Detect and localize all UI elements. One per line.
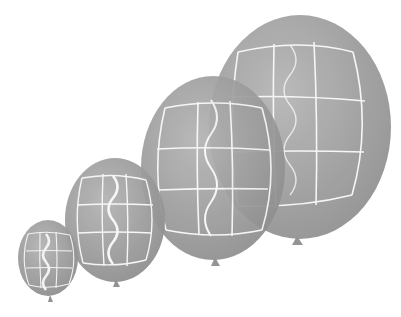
balloon-knot-icon [48,295,53,302]
balloon-medium [65,158,165,287]
balloons-illustration [0,0,401,317]
balloon-small [18,220,78,302]
